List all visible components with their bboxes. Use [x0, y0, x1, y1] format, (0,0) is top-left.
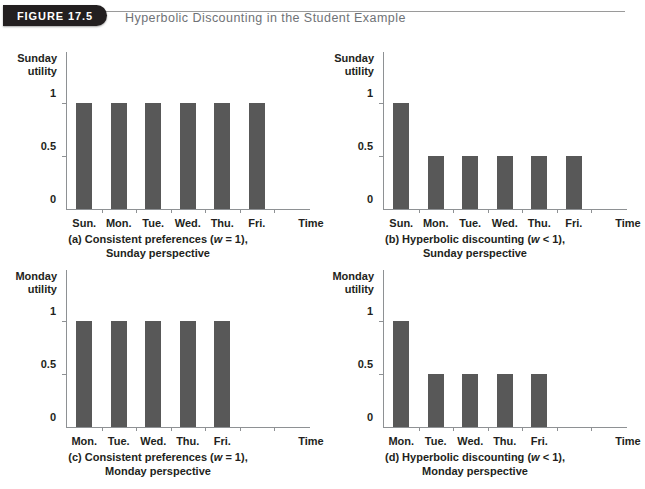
bar [531, 156, 547, 209]
bar-slot: Sun. [67, 52, 102, 209]
bar-slot: Wed. [453, 270, 488, 427]
x-tick-mark [557, 427, 558, 431]
bar [428, 374, 444, 427]
x-tick-mark [591, 427, 592, 431]
x-tick-mark [205, 209, 206, 213]
x-tick-mark [102, 209, 103, 213]
bar-slot: Mon. [102, 52, 137, 209]
y-tick-label: 0.5 [339, 140, 373, 152]
y-axis-title-line1: Monday [0, 270, 57, 283]
bar [76, 103, 92, 209]
bar [393, 321, 409, 427]
bar-slot: Thu. [522, 52, 557, 209]
y-tick-label: 1 [339, 87, 373, 99]
bar [214, 103, 230, 209]
y-tick-mark [379, 321, 383, 322]
panel-caption-line1: (b) Hyperbolic discounting (w < 1), [325, 232, 625, 246]
y-tick-label: 0 [339, 193, 373, 205]
x-tick-label: Fri. [197, 435, 247, 447]
bar-slot: Thu. [171, 270, 206, 427]
bar-group: Sun.Mon.Tue.Wed.Thu.Fri.Time [384, 52, 627, 209]
x-axis-title: Time [598, 435, 645, 447]
y-tick-label: 1 [339, 305, 373, 317]
panel-caption-c: (c) Consistent preferences (w = 1),Monda… [8, 450, 308, 478]
y-tick-mark [379, 156, 383, 157]
bar [428, 156, 444, 209]
bar-slot: Thu. [488, 270, 523, 427]
bar [462, 156, 478, 209]
panel-caption-line1: (c) Consistent preferences (w = 1), [8, 450, 308, 464]
x-tick-mark [419, 427, 420, 431]
bar-slot: Wed. [136, 270, 171, 427]
bar-slot: Sun. [384, 52, 419, 209]
figure-title: Hyperbolic Discounting in the Student Ex… [125, 11, 406, 25]
y-tick-label: 0 [22, 411, 56, 423]
panel-caption-b: (b) Hyperbolic discounting (w < 1),Sunda… [325, 232, 625, 260]
x-tick-mark [453, 427, 454, 431]
panel-caption-line1: (d) Hyperbolic discounting (w < 1), [325, 450, 625, 464]
bar-group: Mon.Tue.Wed.Thu.Fri.Time [384, 270, 627, 427]
y-tick-label: 0.5 [22, 358, 56, 370]
x-tick-mark [136, 427, 137, 431]
x-tick-label: Fri. [514, 435, 564, 447]
x-tick-mark [522, 427, 523, 431]
x-tick-mark [171, 427, 172, 431]
bar-slot: Fri. [205, 270, 240, 427]
x-tick-mark [522, 209, 523, 213]
bar-slot: Mon. [384, 270, 419, 427]
y-tick-mark [62, 321, 66, 322]
y-tick-mark [379, 103, 383, 104]
x-tick-mark [136, 209, 137, 213]
x-tick-mark [102, 427, 103, 431]
y-axis-title-line1: Sunday [264, 52, 374, 65]
x-tick-label: Fri. [549, 217, 599, 229]
panel-caption-line2: Monday perspective [325, 464, 625, 478]
x-tick-mark [488, 209, 489, 213]
y-tick-label: 0.5 [22, 140, 56, 152]
bar [180, 321, 196, 427]
bar [497, 156, 513, 209]
bar [180, 103, 196, 209]
plot-area-b: Sundayutility10.50Sun.Mon.Tue.Wed.Thu.Fr… [383, 52, 627, 210]
bar [393, 103, 409, 209]
y-axis-title-line1: Monday [264, 270, 374, 283]
bar-slot: Wed. [488, 52, 523, 209]
bar-slot: Mon. [67, 270, 102, 427]
bar-slot: Fri. [522, 270, 557, 427]
bar-slot: Thu. [205, 52, 240, 209]
bar-slot: Tue. [453, 52, 488, 209]
y-tick-label: 0.5 [339, 358, 373, 370]
y-tick-label: 1 [22, 87, 56, 99]
y-axis-title: Sundayutility [0, 52, 57, 78]
bar [145, 103, 161, 209]
y-axis-title-line2: utility [0, 283, 57, 296]
x-tick-mark [453, 209, 454, 213]
x-tick-mark [171, 209, 172, 213]
y-axis-title-line2: utility [264, 283, 374, 296]
x-tick-mark [274, 209, 275, 213]
bar [566, 156, 582, 209]
y-axis-title-line2: utility [0, 65, 57, 78]
caption-variable: w [531, 451, 540, 463]
bar-slot: Tue. [419, 270, 454, 427]
panel-caption-line1: (a) Consistent preferences (w = 1), [8, 232, 308, 246]
x-tick-label: Fri. [232, 217, 282, 229]
panel-caption-line2: Monday perspective [8, 464, 308, 478]
x-tick-mark [274, 427, 275, 431]
bar-slot: Tue. [102, 270, 137, 427]
bar [531, 374, 547, 427]
x-tick-mark [240, 209, 241, 213]
y-tick-label: 0 [339, 411, 373, 423]
bar [111, 103, 127, 209]
bar [462, 374, 478, 427]
chart-panel-b: Sundayutility10.50Sun.Mon.Tue.Wed.Thu.Fr… [317, 40, 633, 266]
bar [111, 321, 127, 427]
x-tick-mark [488, 427, 489, 431]
y-axis-title: Mondayutility [264, 270, 374, 296]
bar-slot: Wed. [171, 52, 206, 209]
bar [145, 321, 161, 427]
panel-caption-a: (a) Consistent preferences (w = 1),Sunda… [8, 232, 308, 260]
x-tick-mark [557, 209, 558, 213]
y-axis-title: Sundayutility [264, 52, 374, 78]
caption-variable: w [214, 451, 223, 463]
